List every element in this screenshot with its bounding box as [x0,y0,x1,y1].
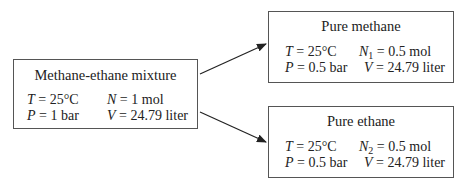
v-symbol: V [364,155,373,170]
p-value: = 0.5 bar [294,60,348,75]
n-value: = 0.5 mol [373,44,431,59]
v-symbol: V [107,108,116,123]
p-value: = 1 bar [36,108,79,123]
p-value: = 0.5 bar [294,155,348,170]
v-value: = 24.79 liter [373,155,445,170]
mixture-title: Methane-ethane mixture [14,67,197,84]
v-value: = 24.79 liter [116,108,188,123]
ethane-moles: N2 = 0.5 mol [359,139,431,155]
n-symbol: N [107,92,116,107]
p-symbol: P [285,60,294,75]
p-symbol: P [285,155,294,170]
mixture-temperature: T = 25°C [27,92,79,108]
ethane-pressure: P = 0.5 bar [285,155,347,171]
methane-temperature: T = 25°C [285,44,337,60]
mixture-volume: V = 24.79 liter [107,108,188,124]
t-symbol: T [27,92,35,107]
methane-moles: N1 = 0.5 mol [359,44,431,60]
methane-title: Pure methane [269,18,453,35]
mixture-box: Methane-ethane mixture T = 25°C N = 1 mo… [13,59,198,129]
n-value: = 0.5 mol [373,139,431,154]
arrow-to-methane [200,44,266,74]
t-value: = 25°C [35,92,79,107]
t-symbol: T [285,139,293,154]
p-symbol: P [27,108,36,123]
ethane-temperature: T = 25°C [285,139,337,155]
t-value: = 25°C [293,139,337,154]
ethane-volume: V = 24.79 liter [364,155,445,171]
mixture-pressure: P = 1 bar [27,108,79,124]
v-value: = 24.79 liter [373,60,445,75]
methane-box: Pure methane T = 25°C N1 = 0.5 mol P = 0… [268,11,454,83]
v-symbol: V [364,60,373,75]
n-symbol: N [359,139,368,154]
n-symbol: N [359,44,368,59]
methane-pressure: P = 0.5 bar [285,60,347,76]
ethane-title: Pure ethane [269,113,453,130]
ethane-box: Pure ethane T = 25°C N2 = 0.5 mol P = 0.… [268,106,454,178]
t-symbol: T [285,44,293,59]
arrow-to-ethane [200,112,266,142]
n-value: = 1 mol [116,92,163,107]
methane-volume: V = 24.79 liter [364,60,445,76]
mixture-moles: N = 1 mol [107,92,164,108]
t-value: = 25°C [293,44,337,59]
